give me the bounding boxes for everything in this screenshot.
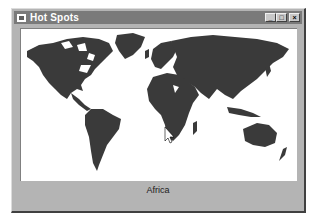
region-madagascar <box>193 121 197 135</box>
region-south-america[interactable] <box>85 109 121 171</box>
region-central-america <box>71 93 91 111</box>
region-australia[interactable] <box>243 123 277 147</box>
region-greenland[interactable] <box>115 33 145 59</box>
region-label: Africa <box>12 185 304 195</box>
world-map-graphic[interactable] <box>21 29 297 181</box>
window-controls: _ □ × <box>265 13 300 22</box>
region-indonesia <box>227 107 261 117</box>
minimize-button[interactable]: _ <box>265 13 276 22</box>
maximize-button[interactable]: □ <box>276 13 287 22</box>
title-bar[interactable]: Hot Spots _ □ × <box>14 11 302 24</box>
region-uk <box>145 49 149 59</box>
hot-spots-window: Hot Spots _ □ × <box>11 8 306 213</box>
world-map[interactable] <box>20 28 297 181</box>
close-button[interactable]: × <box>289 13 300 22</box>
window-title: Hot Spots <box>30 12 79 23</box>
app-icon[interactable] <box>17 14 26 22</box>
region-new-zealand <box>279 147 287 161</box>
